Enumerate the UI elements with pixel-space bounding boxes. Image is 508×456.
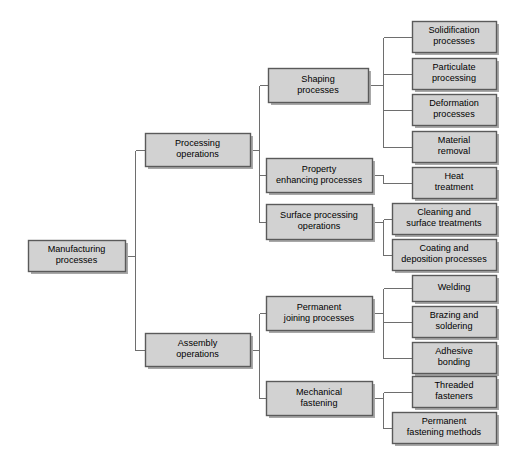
tree-canvas: ManufacturingprocessesProcessingoperatio… bbox=[0, 0, 508, 456]
node-label: Brazing andsoldering bbox=[430, 310, 479, 331]
node-brazing-and-soldering: Brazing andsoldering bbox=[413, 307, 500, 341]
node-label: Assemblyoperations bbox=[176, 338, 219, 359]
edge-surface-to-leaves bbox=[372, 220, 393, 256]
node-adhesive-bonding: Adhesivebonding bbox=[413, 343, 500, 377]
node-deformation-processes: Deformationprocesses bbox=[413, 95, 500, 129]
edge-shaping-to-leaves bbox=[368, 38, 413, 148]
node-label: Shapingprocesses bbox=[297, 74, 339, 95]
node-label: Adhesivebonding bbox=[435, 346, 472, 367]
node-label: Manufacturingprocesses bbox=[48, 244, 106, 265]
node-permanent-fastening-methods: Permanentfastening methods bbox=[393, 413, 500, 447]
node-cleaning-and-surface-treatments: Cleaning andsurface treatments bbox=[393, 204, 500, 238]
node-label: Solidificationprocesses bbox=[428, 25, 479, 46]
edge-root-to-level2 bbox=[125, 151, 146, 351]
edge-property-to-leaves bbox=[372, 176, 413, 184]
node-label: Mechanicalfastening bbox=[296, 387, 342, 408]
node-label: Welding bbox=[438, 282, 471, 292]
node-label: Deformationprocesses bbox=[429, 98, 479, 119]
node-surface-processing-operations: Surface processingoperations bbox=[267, 205, 376, 243]
node-heat-treatment: Heattreatment bbox=[413, 168, 500, 202]
node-label: Materialremoval bbox=[438, 135, 470, 156]
node-solidification-processes: Solidificationprocesses bbox=[413, 22, 500, 56]
node-welding: Welding bbox=[413, 276, 500, 305]
node-coating-and-deposition-processes: Coating anddeposition processes bbox=[393, 240, 500, 274]
node-label: Cleaning andsurface treatments bbox=[406, 207, 482, 228]
node-manufacturing-processes: Manufacturingprocesses bbox=[29, 241, 129, 275]
edge-permanent-joining-to-leaves bbox=[372, 289, 413, 359]
node-threaded-fasteners: Threadedfasteners bbox=[413, 377, 500, 411]
node-processing-operations: Processingoperations bbox=[146, 134, 254, 170]
node-mechanical-fastening: Mechanicalfastening bbox=[267, 382, 376, 419]
node-shaping-processes: Shapingprocesses bbox=[269, 69, 372, 106]
node-assembly-operations: Assemblyoperations bbox=[146, 334, 254, 370]
node-permanent-joining-processes: Permanentjoining processes bbox=[267, 297, 376, 334]
node-particulate-processing: Particulateprocessing bbox=[413, 59, 500, 93]
node-property-enhancing-processes: Propertyenhancing processes bbox=[267, 159, 376, 196]
manufacturing-processes-diagram: ManufacturingprocessesProcessingoperatio… bbox=[0, 0, 508, 456]
node-material-removal: Materialremoval bbox=[413, 132, 500, 166]
node-label: Threadedfasteners bbox=[435, 380, 474, 401]
node-label: Processingoperations bbox=[175, 138, 220, 159]
node-label: Particulateprocessing bbox=[432, 62, 476, 83]
